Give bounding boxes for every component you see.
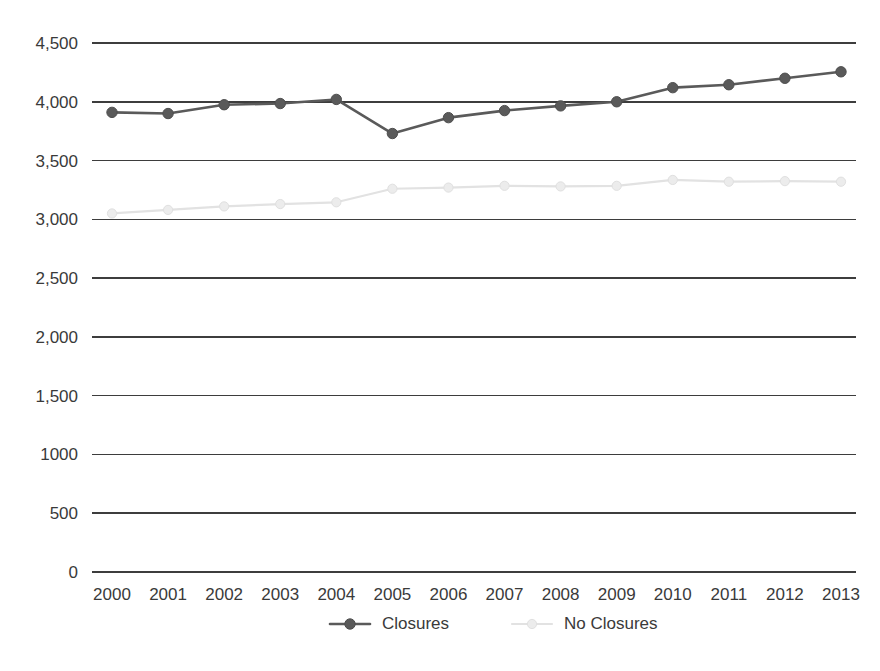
data-point-marker: [275, 98, 285, 108]
data-point-marker: [780, 177, 789, 186]
data-point-marker: [163, 108, 173, 118]
data-point-marker: [387, 128, 397, 138]
data-point-marker: [388, 184, 397, 193]
series-closures: [107, 67, 846, 139]
x-axis-tick-label: 2008: [542, 585, 580, 604]
y-axis-tick-label: 500: [50, 504, 78, 523]
x-axis-tick-label: 2003: [261, 585, 299, 604]
x-axis-tick-label: 2006: [430, 585, 468, 604]
data-point-marker: [780, 73, 790, 83]
data-point-marker: [163, 205, 172, 214]
data-point-marker: [444, 183, 453, 192]
y-axis-tick-label: 2,500: [35, 269, 78, 288]
data-point-marker: [443, 112, 453, 122]
y-axis-tick-label: 3,000: [35, 210, 78, 229]
x-axis-tick-label: 2013: [822, 585, 860, 604]
y-axis-tick-label: 0: [69, 563, 78, 582]
chart-container: 4,5004,0003,5003,0002,5002,0001,50010005…: [0, 0, 880, 671]
series-group: [107, 67, 846, 218]
y-axis-tick-label: 2,000: [35, 328, 78, 347]
legend-item-closures[interactable]: Closures: [330, 614, 449, 633]
data-point-marker: [611, 97, 621, 107]
x-axis-tick-label: 2010: [654, 585, 692, 604]
data-point-marker: [219, 100, 229, 110]
x-axis-tick-label: 2011: [711, 585, 748, 604]
x-axis-tick-labels: 2000200120022003200420052006200720082009…: [93, 585, 860, 604]
legend-label: Closures: [382, 614, 449, 633]
data-point-marker: [668, 82, 678, 92]
y-axis-tick-labels: 4,5004,0003,5003,0002,5002,0001,50010005…: [35, 34, 78, 582]
data-point-marker: [612, 181, 621, 190]
data-point-marker: [555, 101, 565, 111]
data-point-marker: [276, 199, 285, 208]
data-point-marker: [107, 209, 116, 218]
y-axis-tick-label: 4,500: [35, 34, 78, 53]
line-chart: 4,5004,0003,5003,0002,5002,0001,50010005…: [0, 0, 880, 671]
x-axis-tick-label: 2001: [149, 585, 187, 604]
series-no-closures: [107, 175, 845, 218]
data-point-marker: [331, 94, 341, 104]
legend-label: No Closures: [564, 614, 658, 633]
data-point-marker: [724, 80, 734, 90]
y-axis-tick-label: 1,500: [35, 387, 78, 406]
data-point-marker: [836, 67, 846, 77]
chart-legend: ClosuresNo Closures: [330, 614, 658, 633]
data-point-marker: [499, 105, 509, 115]
x-axis-tick-label: 2009: [598, 585, 636, 604]
legend-item-no-closures[interactable]: No Closures: [512, 614, 658, 633]
x-axis-tick-label: 2007: [486, 585, 524, 604]
data-point-marker: [556, 182, 565, 191]
x-axis-tick-label: 2004: [317, 585, 355, 604]
data-point-marker: [107, 107, 117, 117]
legend-marker-swatch: [527, 619, 536, 628]
x-axis-tick-label: 2005: [373, 585, 411, 604]
legend-marker-swatch: [345, 619, 355, 629]
data-point-marker: [332, 198, 341, 207]
data-point-marker: [220, 202, 229, 211]
x-axis-tick-label: 2012: [766, 585, 804, 604]
x-axis-tick-label: 2002: [205, 585, 243, 604]
data-point-marker: [724, 177, 733, 186]
data-point-marker: [500, 181, 509, 190]
y-axis-tick-label: 4,000: [35, 93, 78, 112]
y-axis-tick-label: 1000: [40, 445, 78, 464]
y-axis-tick-label: 3,500: [35, 152, 78, 171]
x-axis-tick-label: 2000: [93, 585, 131, 604]
data-point-marker: [668, 175, 677, 184]
data-point-marker: [836, 177, 845, 186]
gridlines-group: [92, 43, 856, 572]
